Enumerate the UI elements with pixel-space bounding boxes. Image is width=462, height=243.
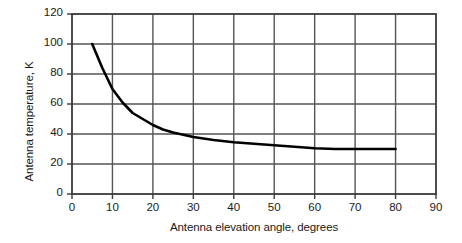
y-tick-label: 20 (33, 156, 63, 168)
x-tick-label: 90 (421, 201, 451, 213)
x-tick-label: 20 (138, 201, 168, 213)
x-tick-label: 10 (97, 201, 127, 213)
y-tick-label: 100 (33, 36, 63, 48)
y-tick-label: 0 (33, 186, 63, 198)
chart-figure: Antenna temperature, K 020406080100120 0… (0, 0, 462, 243)
x-tick-label: 80 (381, 201, 411, 213)
y-tick-label: 120 (33, 6, 63, 18)
x-tick-label: 30 (178, 201, 208, 213)
x-tick-label: 40 (219, 201, 249, 213)
x-tick-label: 60 (300, 201, 330, 213)
x-axis-label: Antenna elevation angle, degrees (72, 221, 436, 233)
x-tick-label: 50 (259, 201, 289, 213)
y-tick-label: 60 (33, 96, 63, 108)
y-tick-label: 80 (33, 66, 63, 78)
y-tick-label: 40 (33, 126, 63, 138)
x-tick-label: 0 (57, 201, 87, 213)
x-tick-label: 70 (340, 201, 370, 213)
